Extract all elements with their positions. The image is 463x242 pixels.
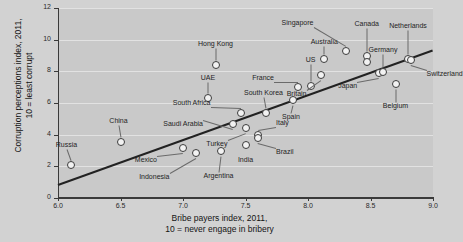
x-axis-tick	[308, 197, 309, 201]
point-label-brazil: Brazil	[276, 148, 294, 156]
data-point-britain[interactable]	[317, 71, 325, 79]
point-label-spain: Spain	[282, 113, 300, 121]
x-axis-tick-label: 7.0	[178, 202, 188, 209]
point-label-germany: Germany	[369, 46, 398, 54]
point-label-japan: Japan	[338, 82, 357, 90]
data-point-brazil[interactable]	[254, 134, 262, 142]
y-axis-tick-label: 8	[47, 66, 51, 73]
y-axis-tick	[54, 71, 58, 72]
y-axis-tick	[54, 103, 58, 104]
point-label-turkey: Turkey	[206, 140, 227, 148]
data-point-mexico[interactable]	[179, 144, 187, 152]
point-label-uae: UAE	[201, 74, 215, 82]
y-axis-tick-label: 2	[47, 161, 51, 168]
data-point-south-korea[interactable]	[262, 109, 270, 117]
x-axis-tick	[183, 197, 184, 201]
x-axis-tick	[121, 197, 122, 201]
point-label-singapore: Singapore	[282, 19, 314, 27]
point-label-canada: Canada	[354, 20, 379, 28]
leader-line	[395, 90, 396, 103]
data-point-germany[interactable]	[379, 68, 387, 76]
point-label-saudi-arabia: Saudi Arabia	[163, 120, 203, 128]
data-point-singapore[interactable]	[342, 47, 350, 55]
x-axis-tick-label: 6.5	[116, 202, 126, 209]
leader-line	[310, 64, 311, 81]
point-label-us: US	[306, 56, 316, 64]
x-axis-tick	[58, 197, 59, 201]
point-label-russia: Russia	[56, 141, 77, 149]
point-label-south-korea: South Korea	[244, 89, 283, 97]
point-label-mexico: Mexico	[135, 156, 157, 164]
y-axis-tick-label: 6	[47, 98, 51, 105]
point-label-switzerland: Switzerland	[427, 70, 463, 78]
gridline	[58, 166, 433, 167]
point-label-netherlands: Netherlands	[389, 22, 427, 30]
x-axis-title-line1: Bribe payers index, 2011,	[0, 213, 439, 224]
gridline	[58, 40, 433, 41]
point-label-argentina: Argentina	[204, 172, 234, 180]
gridline	[58, 135, 433, 136]
point-label-indonesia: Indonesia	[139, 173, 169, 181]
data-point-hong-kong[interactable]	[212, 61, 220, 69]
x-axis-tick	[433, 197, 434, 201]
data-point-turkey[interactable]	[242, 124, 250, 132]
y-axis-title-line2: 10 = least corrupt	[23, 1, 34, 171]
x-axis-tick-label: 8.0	[303, 202, 313, 209]
data-point-belgium[interactable]	[392, 80, 400, 88]
data-point-russia[interactable]	[67, 161, 75, 169]
leader-line	[215, 49, 216, 61]
y-axis-tick-label: 10	[43, 35, 51, 42]
data-point-australia[interactable]	[320, 55, 328, 63]
y-axis-line	[58, 8, 59, 198]
x-axis-title-line2: 10 = never engage in bribery	[0, 224, 439, 235]
data-point-saudi-arabia[interactable]	[229, 120, 237, 128]
gridline	[58, 103, 433, 104]
data-point-south-africa[interactable]	[237, 109, 245, 117]
x-axis-title: Bribe payers index, 2011, 10 = never eng…	[0, 213, 439, 234]
point-label-france: France	[252, 74, 274, 82]
y-axis-tick-label: 4	[47, 130, 51, 137]
data-point-indonesia[interactable]	[192, 149, 200, 157]
x-axis-tick	[371, 197, 372, 201]
y-axis-tick	[54, 8, 58, 9]
point-label-india: India	[238, 156, 253, 164]
x-axis-tick-label: 8.5	[366, 202, 376, 209]
leader-line	[408, 30, 409, 54]
leader-line	[208, 83, 209, 94]
y-axis-tick	[54, 40, 58, 41]
y-axis-title: Corruption perceptions index, 2011, 10 =…	[13, 1, 34, 171]
x-axis-tick-label: 6.0	[53, 202, 63, 209]
gridline	[58, 8, 433, 9]
data-point-india[interactable]	[242, 141, 250, 149]
point-label-hong-kong: Hong Kong	[198, 40, 233, 48]
point-label-south-africa: South Africa	[173, 99, 211, 107]
x-axis-tick-label: 9.0	[428, 202, 438, 209]
x-axis-tick-label: 7.5	[241, 202, 251, 209]
data-point-argentina[interactable]	[217, 147, 225, 155]
y-axis-tick-label: 0	[47, 193, 51, 200]
leader-line	[366, 29, 367, 52]
data-point-china[interactable]	[117, 138, 125, 146]
y-axis-tick	[54, 166, 58, 167]
x-axis-tick	[246, 197, 247, 201]
data-point-canada2[interactable]	[363, 58, 371, 66]
leader-line	[383, 55, 384, 68]
y-axis-tick-label: 12	[43, 3, 51, 10]
point-label-britain: Britain	[287, 90, 307, 98]
plot-area	[58, 8, 433, 198]
point-label-belgium: Belgium	[383, 102, 408, 110]
leader-line	[274, 82, 298, 83]
y-axis-title-line1: Corruption perceptions index, 2011,	[13, 1, 24, 171]
point-label-china: China	[109, 117, 127, 125]
y-axis-tick	[54, 135, 58, 136]
data-point-switzerland[interactable]	[407, 56, 415, 64]
